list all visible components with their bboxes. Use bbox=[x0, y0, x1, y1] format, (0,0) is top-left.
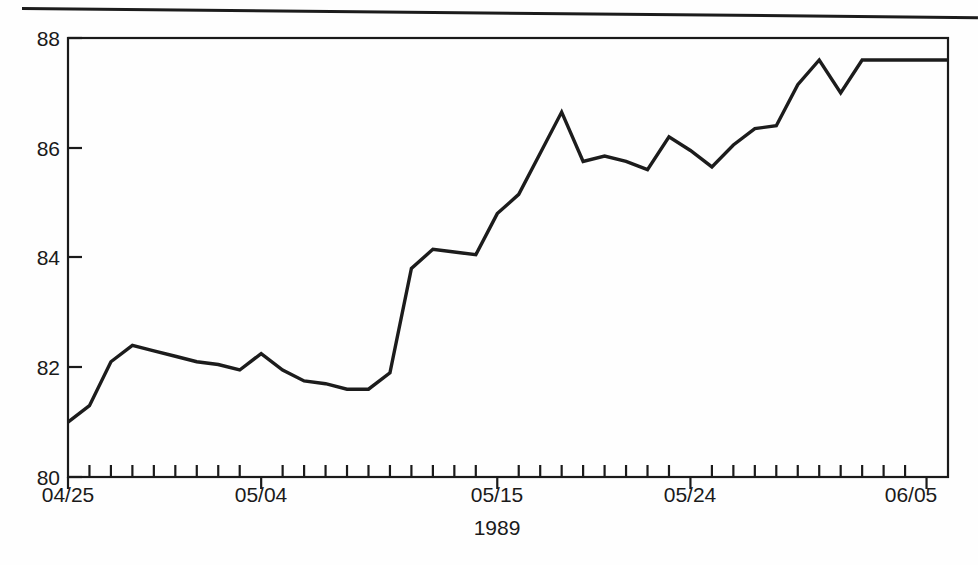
y-tick-label-84: 84 bbox=[37, 246, 61, 269]
x-tick-label-0504: 05/04 bbox=[235, 483, 288, 506]
line-chart: 88 86 84 82 80 04/25 05/04 05/15 05/24 0… bbox=[0, 0, 978, 565]
y-tick-label-82: 82 bbox=[37, 356, 60, 379]
plot-frame bbox=[68, 38, 948, 477]
x-tick-label-0515: 05/15 bbox=[471, 483, 524, 506]
x-axis-title: 1989 bbox=[474, 516, 521, 539]
x-tick-labels: 04/25 05/04 05/15 05/24 06/05 bbox=[42, 483, 938, 506]
x-tick-label-0524: 05/24 bbox=[664, 483, 717, 506]
y-tick-label-88: 88 bbox=[37, 27, 60, 50]
x-tick-label-0605: 06/05 bbox=[885, 483, 938, 506]
y-tick-label-86: 86 bbox=[37, 137, 60, 160]
figure-page: 88 86 84 82 80 04/25 05/04 05/15 05/24 0… bbox=[0, 0, 978, 565]
data-series-line bbox=[68, 60, 948, 422]
y-tick-labels: 88 86 84 82 80 bbox=[37, 27, 61, 489]
chart-svg: 88 86 84 82 80 04/25 05/04 05/15 05/24 0… bbox=[0, 0, 978, 565]
x-tick-label-0425: 04/25 bbox=[42, 483, 95, 506]
